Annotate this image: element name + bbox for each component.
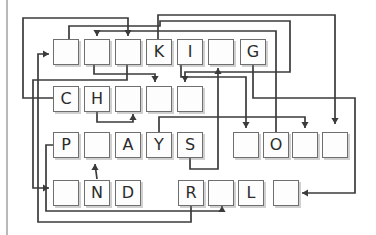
blank-tile [273, 180, 299, 206]
letter-tile-O: O [263, 132, 289, 158]
arrow-line [159, 117, 305, 132]
blank-tile [84, 39, 110, 65]
blank-tile [53, 39, 79, 65]
letter-tile-C: C [53, 86, 79, 112]
blank-tile [208, 39, 234, 65]
arrowhead-icon [91, 164, 98, 170]
arrowhead-icon [301, 122, 308, 128]
letter-tile-A: A [115, 132, 141, 158]
blank-tile [84, 132, 110, 158]
arrowhead-icon [302, 189, 308, 196]
letter-tile-L: L [238, 180, 264, 206]
arrowhead-icon [331, 118, 338, 124]
letter-tile-P: P [53, 132, 79, 158]
blank-tile [146, 86, 172, 112]
arrow-line [97, 111, 133, 122]
letter-tile-R: R [178, 180, 204, 206]
letter-tile-Y: Y [146, 132, 172, 158]
arrowhead-icon [93, 30, 100, 36]
puzzle-diagram: KIGCHPAYSONDRL [0, 0, 376, 235]
arrow-line [33, 65, 127, 188]
blank-tile [292, 132, 318, 158]
letter-tile-G: G [240, 39, 266, 65]
blank-tile [322, 132, 348, 158]
arrowhead-icon [242, 122, 249, 128]
letter-tile-S: S [177, 132, 203, 158]
blank-tile [208, 180, 234, 206]
arrowhead-icon [214, 68, 221, 74]
letter-tile-D: D [115, 180, 141, 206]
blank-tile [177, 86, 203, 112]
blank-tile [53, 180, 79, 206]
arrow-line [253, 65, 355, 193]
blank-tile [115, 86, 141, 112]
arrowhead-icon [218, 206, 225, 212]
arrowhead-icon [129, 114, 136, 120]
letter-tile-H: H [84, 86, 110, 112]
arrowhead-icon [43, 50, 49, 57]
letter-tile-N: N [84, 180, 110, 206]
letter-tile-K: K [146, 39, 172, 65]
arrowhead-icon [151, 76, 158, 82]
blank-tile [115, 39, 141, 65]
blank-tile [233, 132, 259, 158]
letter-tile-I: I [177, 39, 203, 65]
